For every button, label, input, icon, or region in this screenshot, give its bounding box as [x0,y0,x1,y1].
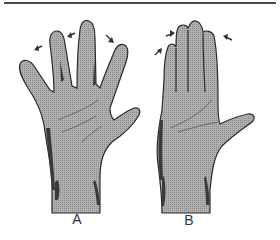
panel-label-b: B [179,212,199,228]
panel-label-a: A [67,211,87,227]
arrow-icon [34,32,114,51]
hand-b [157,21,254,213]
hands-illustration [0,0,280,240]
